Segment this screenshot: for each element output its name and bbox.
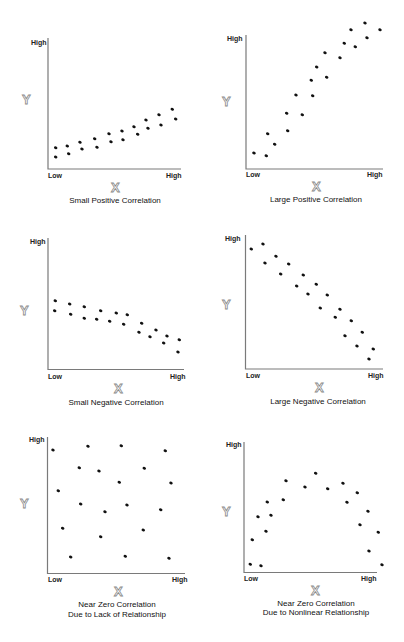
data-point	[264, 154, 268, 158]
data-point	[142, 466, 146, 470]
data-point	[367, 549, 371, 553]
y-axis-label: Y	[20, 303, 29, 318]
data-point	[378, 28, 382, 32]
data-points	[248, 471, 384, 567]
data-point	[269, 513, 273, 517]
x-axis-label: X	[114, 584, 123, 599]
x-axis-label: X	[114, 381, 123, 396]
data-point	[272, 142, 276, 146]
data-point	[264, 529, 268, 533]
data-point	[65, 144, 69, 148]
data-points	[53, 107, 177, 159]
data-point	[259, 564, 263, 568]
data-point	[366, 509, 370, 513]
plot-near-zero-nonlinear-relationship: High Low High Y X Near Zero Correlation …	[222, 441, 384, 617]
data-point	[314, 65, 318, 69]
data-point	[139, 321, 143, 325]
data-point	[56, 489, 60, 493]
x-high-label: High	[361, 575, 377, 583]
data-point	[324, 75, 328, 79]
plot-near-zero-lack-of-relationship: High Low High Y X Near Zero Correlation …	[20, 436, 188, 619]
data-point	[146, 126, 150, 130]
data-point	[80, 147, 84, 151]
plot-subtitle: Due to Lack of Relationship	[68, 610, 166, 619]
x-high-label: High	[166, 172, 182, 180]
data-point	[67, 302, 71, 306]
data-point	[98, 309, 102, 313]
data-point	[274, 254, 278, 258]
data-point	[355, 491, 359, 495]
data-point	[148, 335, 152, 339]
plot-small-positive-correlation: High Low High Y X Small Positive Correla…	[22, 38, 182, 205]
data-point	[349, 319, 353, 323]
axes	[246, 35, 383, 169]
data-point	[135, 132, 139, 136]
data-point	[265, 500, 269, 504]
y-high-label: High	[29, 436, 45, 444]
x-low-label: Low	[48, 172, 63, 179]
y-high-label: High	[225, 235, 241, 243]
data-point	[107, 319, 111, 323]
data-point	[92, 137, 96, 141]
data-point	[371, 347, 375, 351]
data-point	[284, 111, 288, 115]
data-point	[325, 487, 329, 491]
data-point	[323, 51, 327, 55]
data-point	[281, 498, 285, 502]
data-point	[353, 45, 357, 49]
y-axis-label: Y	[222, 94, 231, 109]
data-point	[78, 502, 82, 506]
data-point	[161, 341, 165, 345]
data-point	[333, 315, 337, 319]
data-point	[256, 515, 260, 519]
x-axis-label: X	[312, 179, 321, 194]
data-point	[121, 138, 125, 142]
data-point	[98, 535, 102, 539]
data-point	[300, 113, 304, 117]
data-point	[132, 125, 136, 129]
data-point	[82, 316, 86, 320]
data-point	[141, 528, 145, 532]
data-point	[176, 350, 180, 354]
data-point	[338, 307, 342, 311]
data-point	[306, 292, 310, 296]
data-point	[303, 485, 307, 489]
data-point	[120, 129, 124, 133]
data-point	[60, 526, 64, 530]
data-point	[137, 330, 141, 334]
data-point	[294, 284, 298, 288]
data-point	[158, 508, 162, 512]
x-low-label: Low	[246, 372, 261, 379]
data-point	[95, 145, 99, 149]
correlation-scatterplots-figure: High Low High Y X Small Positive Correla…	[0, 0, 404, 642]
data-point	[360, 330, 364, 334]
data-point	[367, 357, 371, 361]
data-point	[66, 152, 70, 156]
x-high-label: High	[368, 372, 384, 380]
data-point	[77, 466, 81, 470]
data-point	[53, 299, 57, 303]
data-point	[358, 523, 362, 527]
data-point	[249, 247, 253, 251]
data-point	[119, 444, 123, 448]
data-point	[123, 554, 127, 558]
data-point	[349, 28, 353, 32]
data-point	[125, 503, 129, 507]
x-axis-label: X	[111, 180, 120, 195]
data-point	[363, 21, 367, 25]
data-point	[380, 563, 384, 567]
data-point	[167, 556, 171, 560]
data-point	[309, 78, 313, 82]
data-point	[342, 41, 346, 45]
data-point	[107, 132, 111, 136]
plot-title: Large Positive Correlation	[270, 195, 362, 204]
data-point	[313, 471, 317, 475]
y-high-label: High	[31, 39, 47, 47]
axes	[48, 38, 181, 169]
data-points	[51, 444, 173, 561]
y-axis-label: Y	[20, 496, 29, 511]
x-low-label: Low	[48, 576, 63, 583]
x-high-label: High	[367, 171, 383, 179]
data-point	[248, 562, 252, 566]
data-point	[169, 481, 173, 485]
